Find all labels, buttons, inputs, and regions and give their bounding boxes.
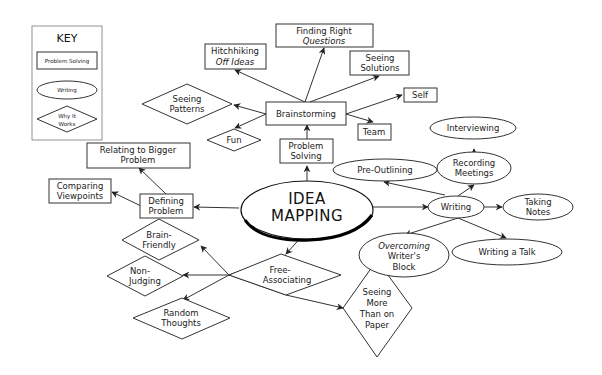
- svg-text:Questions: Questions: [303, 36, 346, 46]
- node-overcoming-writers-block[interactable]: Overcoming Writer's Block: [359, 233, 449, 277]
- svg-text:Relating to Bigger: Relating to Bigger: [100, 145, 177, 155]
- node-defining-problem[interactable]: Defining Problem: [140, 194, 193, 218]
- svg-text:Associating: Associating: [263, 275, 312, 285]
- svg-text:Problem: Problem: [149, 206, 184, 216]
- svg-text:Overcoming: Overcoming: [378, 241, 430, 251]
- svg-text:Random: Random: [163, 308, 198, 318]
- svg-text:Non-: Non-: [130, 266, 150, 276]
- svg-text:Friendly: Friendly: [142, 240, 176, 250]
- node-writing-a-talk[interactable]: Writing a Talk: [452, 239, 562, 265]
- svg-text:Than on: Than on: [359, 309, 394, 319]
- svg-text:Notes: Notes: [526, 207, 551, 217]
- svg-text:Writing: Writing: [441, 202, 471, 212]
- center-title-line2: MAPPING: [271, 207, 343, 225]
- node-relating-to-bigger-problem[interactable]: Relating to Bigger Problem: [87, 143, 190, 168]
- svg-text:Paper: Paper: [365, 320, 390, 330]
- svg-text:Interviewing: Interviewing: [447, 123, 500, 133]
- svg-text:Viewpoints: Viewpoints: [57, 191, 104, 201]
- svg-text:Brain-: Brain-: [146, 230, 171, 240]
- node-self[interactable]: Self: [404, 88, 437, 102]
- svg-text:Team: Team: [362, 127, 385, 137]
- node-fun[interactable]: Fun: [207, 129, 261, 151]
- svg-text:Writer's: Writer's: [388, 251, 421, 261]
- svg-text:Problem: Problem: [121, 155, 156, 165]
- node-hitchhiking-off-ideas[interactable]: Hitchhiking Off Ideas: [205, 44, 266, 69]
- svg-text:Seeing: Seeing: [173, 94, 202, 104]
- svg-text:Meetings: Meetings: [455, 168, 494, 178]
- legend-title: KEY: [57, 32, 78, 45]
- svg-text:Brainstorming: Brainstorming: [276, 109, 336, 119]
- svg-text:Self: Self: [412, 90, 429, 100]
- svg-text:Block: Block: [393, 262, 416, 272]
- svg-text:Off Ideas: Off Ideas: [216, 57, 255, 67]
- svg-text:Defining: Defining: [148, 196, 184, 206]
- svg-text:Writing a Talk: Writing a Talk: [478, 247, 535, 257]
- svg-text:More: More: [366, 298, 387, 308]
- node-problem-solving[interactable]: Problem Solving: [280, 139, 333, 163]
- svg-text:Patterns: Patterns: [169, 104, 205, 114]
- node-brain-friendly[interactable]: Brain- Friendly: [122, 219, 199, 260]
- node-free-associating[interactable]: Free- Associating: [229, 254, 341, 295]
- node-team[interactable]: Team: [358, 124, 391, 140]
- legend-diamond-label-1: Why It: [58, 113, 77, 120]
- center-node-idea-mapping[interactable]: IDEA MAPPING: [241, 181, 373, 240]
- node-comparing-viewpoints[interactable]: Comparing Viewpoints: [49, 179, 111, 203]
- svg-text:Seeing: Seeing: [366, 53, 395, 63]
- svg-text:Judging: Judging: [128, 276, 161, 286]
- svg-text:Fun: Fun: [226, 135, 241, 145]
- svg-text:Comparing: Comparing: [57, 181, 104, 191]
- svg-text:Seeing: Seeing: [363, 287, 392, 297]
- node-writing[interactable]: Writing: [428, 196, 484, 218]
- svg-text:Free-: Free-: [269, 265, 290, 275]
- svg-text:Problem: Problem: [289, 141, 324, 151]
- svg-text:Thoughts: Thoughts: [160, 318, 201, 328]
- node-seeing-patterns[interactable]: Seeing Patterns: [142, 84, 232, 124]
- svg-text:Hitchhiking: Hitchhiking: [211, 46, 259, 56]
- idea-map-diagram: KEY Problem Solving Writing Why It Works: [0, 0, 602, 375]
- svg-text:Solving: Solving: [290, 151, 321, 161]
- legend-rectangle-label: Problem Solving: [45, 58, 89, 65]
- node-pre-outlining[interactable]: Pre-Outlining: [333, 159, 437, 181]
- node-recording-meetings[interactable]: Recording Meetings: [437, 152, 511, 184]
- legend-ellipse-label: Writing: [57, 87, 77, 94]
- svg-text:Recording: Recording: [453, 158, 496, 168]
- svg-text:Finding Right: Finding Right: [296, 26, 352, 36]
- svg-text:Pre-Outlining: Pre-Outlining: [357, 165, 412, 175]
- legend-key: KEY Problem Solving Writing Why It Works: [32, 26, 102, 140]
- node-interviewing[interactable]: Interviewing: [430, 117, 516, 139]
- center-title-line1: IDEA: [288, 190, 326, 208]
- node-brainstorming[interactable]: Brainstorming: [266, 102, 346, 125]
- node-taking-notes[interactable]: Taking Notes: [503, 194, 573, 220]
- node-seeing-solutions[interactable]: Seeing Solutions: [350, 51, 409, 75]
- svg-text:Taking: Taking: [523, 197, 551, 207]
- node-non-judging[interactable]: Non- Judging: [107, 256, 183, 296]
- svg-text:Solutions: Solutions: [360, 63, 400, 73]
- node-random-thoughts[interactable]: Random Thoughts: [133, 298, 230, 339]
- legend-diamond-label-2: Works: [59, 121, 76, 127]
- node-finding-right-questions[interactable]: Finding Right Questions: [276, 24, 373, 47]
